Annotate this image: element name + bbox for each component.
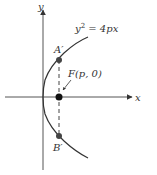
focus-point xyxy=(56,94,63,101)
focus-pointer-arrow xyxy=(63,80,71,90)
point-b xyxy=(56,133,62,139)
point-a-label: A′ xyxy=(53,44,64,55)
y-axis-label: y xyxy=(37,1,44,12)
point-a xyxy=(56,57,62,63)
x-axis-label: x xyxy=(135,92,141,103)
focus-label: F(p, 0) xyxy=(67,68,102,79)
equation-label: y2 = 4px xyxy=(74,22,119,34)
point-b-label: B′ xyxy=(52,142,63,153)
parabola-diagram: y x y2 = 4px A′ F(p, 0) B′ xyxy=(0,0,157,175)
